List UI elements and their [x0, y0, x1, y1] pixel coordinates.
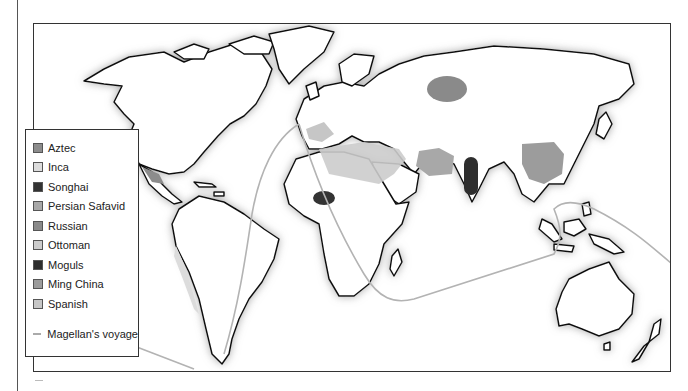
page-corner-mark [35, 380, 43, 387]
legend-label: Moguls [48, 259, 83, 271]
legend-item-persian-safavid: Persian Safavid [33, 197, 138, 217]
route-line-swatch [33, 333, 41, 335]
legend-item-aztec: Aztec [33, 138, 138, 158]
swatch-inca [33, 162, 43, 172]
legend-label: Songhai [48, 181, 88, 193]
legend-label: Spanish [48, 298, 88, 310]
legend-label: Russian [48, 220, 88, 232]
legend-label: Magellan's voyage [47, 328, 138, 340]
swatch-ming-china [33, 279, 43, 289]
legend-label: Aztec [48, 142, 76, 154]
legend-label: Ottoman [48, 239, 90, 251]
swatch-ottoman [33, 240, 43, 250]
swatch-songhai [33, 182, 43, 192]
legend-item-inca: Inca [33, 158, 138, 178]
swatch-persian-safavid [33, 201, 43, 211]
legend-label: Persian Safavid [48, 200, 125, 212]
legend-label: Inca [48, 161, 69, 173]
swatch-moguls [33, 260, 43, 270]
legend-item-ming-china: Ming China [33, 275, 138, 295]
legend-item-songhai: Songhai [33, 177, 138, 197]
legend-item-moguls: Moguls [33, 255, 138, 275]
legend-item-spanish: Spanish [33, 294, 138, 314]
swatch-russian [33, 221, 43, 231]
map-legend: Aztec Inca Songhai Persian Safavid Russi… [25, 129, 139, 357]
swatch-spanish [33, 299, 43, 309]
region-russian [427, 76, 467, 102]
legend-item-magellan-route: Magellan's voyage [33, 328, 138, 340]
australia [556, 262, 634, 336]
legend-item-ottoman: Ottoman [33, 236, 138, 256]
region-moguls [464, 157, 478, 195]
swatch-aztec [33, 143, 43, 153]
legend-item-russian: Russian [33, 216, 138, 236]
legend-label: Ming China [48, 278, 104, 290]
page-margin-rule [17, 0, 18, 391]
greenland [269, 26, 334, 84]
